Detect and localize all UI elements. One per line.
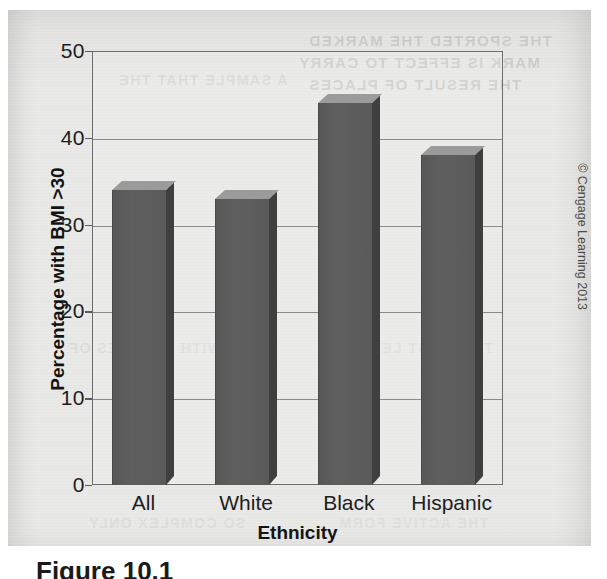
y-axis-tick-mark <box>85 485 92 486</box>
bar-top-face <box>421 146 485 155</box>
bar-front-face <box>421 155 476 485</box>
x-axis-tick-label: Black <box>298 491 401 515</box>
bar-top-face <box>112 181 176 190</box>
y-axis-tick-mark <box>85 398 92 399</box>
bar <box>215 199 269 485</box>
x-axis-tick-label: All <box>92 491 195 515</box>
x-axis-tick-label: White <box>195 491 298 515</box>
x-axis-title: Ethnicity <box>92 522 503 544</box>
bar <box>421 155 475 485</box>
y-axis-tick-mark <box>85 51 92 52</box>
y-axis-tick-label: 0 <box>33 473 85 497</box>
scanned-page: THE SPORTED THE MARKED MARK IS EFFECT TO… <box>0 0 607 579</box>
bar-front-face <box>215 199 270 485</box>
figure-caption: Figure 10.1 <box>36 556 173 579</box>
x-axis-tick-label: Hispanic <box>400 491 503 515</box>
gridline <box>93 139 502 140</box>
bar-chart: 01020304050 AllWhiteBlackHispanic Ethnic… <box>8 10 591 546</box>
bar-side-face <box>269 190 277 485</box>
bar-top-face <box>215 190 279 199</box>
y-axis-tick-label: 50 <box>33 39 85 63</box>
y-axis-tick-mark <box>85 138 92 139</box>
bar-side-face <box>166 181 174 485</box>
y-axis-title: Percentage with BMI >30 <box>47 89 69 469</box>
bar-front-face <box>318 103 373 485</box>
bar-side-face <box>475 146 483 485</box>
bar-front-face <box>112 190 167 485</box>
bar-side-face <box>372 94 380 485</box>
copyright-credit: © Cengage Learning 2013 <box>575 163 589 310</box>
bar-top-face <box>318 94 382 103</box>
bar <box>112 190 166 485</box>
y-axis-tick-mark <box>85 225 92 226</box>
bar <box>318 103 372 485</box>
y-axis-tick-mark <box>85 311 92 312</box>
